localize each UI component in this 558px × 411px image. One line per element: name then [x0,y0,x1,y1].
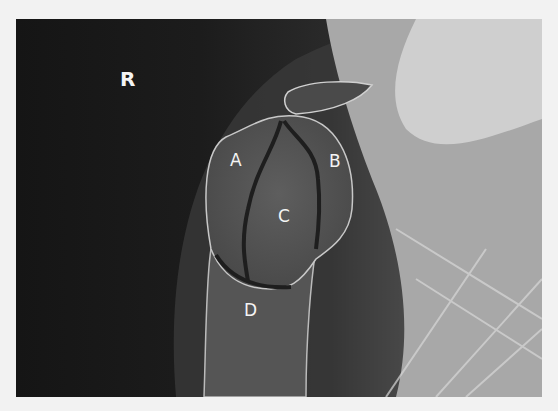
side-marker-label: R [120,69,135,89]
fragment-label-d: D [244,302,257,319]
fragment-label-b: B [329,153,341,170]
fragment-label-a: A [230,152,242,169]
fragment-label-c: C [278,208,290,225]
shoulder-xray-image: R A B C D [16,19,542,397]
